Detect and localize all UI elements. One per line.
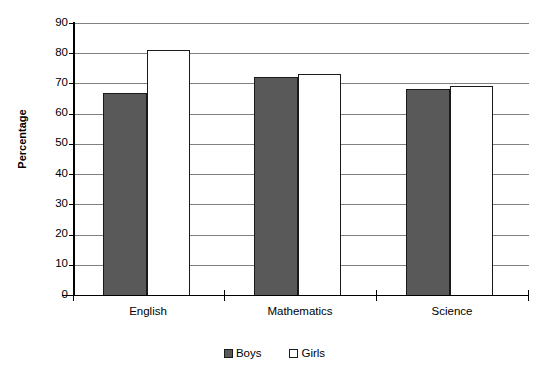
- y-tick-label: 70: [55, 77, 68, 88]
- y-tick-label: 90: [55, 17, 68, 28]
- y-tick-label: 50: [55, 137, 68, 148]
- legend-swatch-girls-icon: [289, 349, 298, 358]
- y-axis-tick: [69, 23, 74, 24]
- x-tick-label-english: English: [108, 305, 188, 317]
- y-axis-line: [73, 22, 75, 296]
- bar-girls-english: [147, 50, 190, 296]
- x-tick-label-mathematics: Mathematics: [240, 305, 360, 317]
- x-tick-label-science: Science: [412, 305, 492, 317]
- x-axis-tick-start: [73, 290, 74, 301]
- x-axis-tick-2: [376, 290, 377, 301]
- x-axis-tick-1: [224, 290, 225, 301]
- legend-item-boys: Boys: [224, 347, 262, 359]
- bar-boys-science: [406, 89, 450, 296]
- gridline-90: [73, 23, 529, 24]
- y-tick-label: 30: [55, 198, 68, 209]
- y-tick-label: 60: [55, 107, 68, 118]
- y-tick-label: 40: [55, 168, 68, 179]
- gridline-80: [73, 53, 529, 54]
- legend-item-girls: Girls: [289, 347, 325, 359]
- bar-girls-mathematics: [298, 74, 341, 296]
- legend-swatch-boys-icon: [224, 349, 233, 358]
- y-axis-tick: [69, 174, 74, 175]
- y-tick-label: 80: [55, 47, 68, 58]
- bar-boys-english: [103, 93, 147, 296]
- y-axis-tick: [69, 144, 74, 145]
- plot-area: [73, 23, 529, 295]
- legend-label-girls: Girls: [301, 347, 325, 359]
- bar-boys-mathematics: [254, 77, 298, 296]
- y-axis-tick: [69, 53, 74, 54]
- y-axis-tick: [69, 265, 74, 266]
- y-tick-label: 10: [55, 258, 68, 269]
- y-axis-tick: [69, 235, 74, 236]
- bar-girls-science: [450, 86, 493, 296]
- x-axis-line: [62, 295, 529, 296]
- legend: Boys Girls: [0, 347, 549, 359]
- y-axis-tick: [69, 204, 74, 205]
- x-axis-tick-end: [528, 290, 529, 301]
- legend-label-boys: Boys: [236, 347, 262, 359]
- y-axis-title: Percentage: [16, 79, 28, 199]
- y-axis-tick: [69, 114, 74, 115]
- y-axis-tick: [69, 83, 74, 84]
- bar-chart: Percentage 90 80 70 60 50 40 30 20 10 0: [0, 0, 549, 375]
- y-axis-tick-labels: 90 80 70 60 50 40 30 20 10 0: [38, 23, 68, 295]
- y-tick-label: 20: [55, 228, 68, 239]
